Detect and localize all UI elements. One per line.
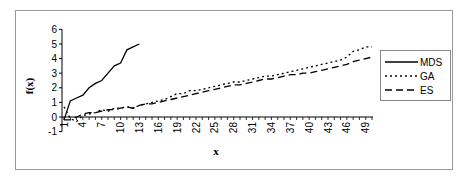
x-tick-label: 43 [323, 122, 334, 134]
x-tick-label: 22 [191, 122, 202, 134]
x-tick-label: 16 [153, 122, 164, 134]
y-tick-label: 1 [51, 97, 57, 108]
x-tick-label: 40 [304, 122, 315, 134]
x-tick-label: 19 [172, 122, 183, 134]
y-axis-title: f(x) [23, 77, 36, 94]
y-tick-label: 3 [51, 68, 57, 79]
x-tick-label: 10 [115, 122, 126, 134]
legend-label-ga: GA [420, 71, 435, 82]
x-tick-label: 49 [360, 122, 371, 134]
y-tick-label: 4 [51, 53, 57, 64]
legend-label-es: ES [420, 85, 434, 96]
y-tick-label: -1 [48, 126, 57, 137]
y-tick-label: 2 [51, 82, 57, 93]
legend: MDS GA ES [381, 51, 451, 101]
x-tick-label: 25 [209, 122, 220, 134]
x-tick-label: 46 [341, 122, 352, 134]
y-tick-label: 0 [51, 112, 57, 123]
x-tick-label: 28 [228, 122, 239, 134]
x-tick-label: 34 [266, 122, 277, 134]
x-tick-label: 31 [247, 122, 258, 134]
line-chart: -10123456 147101316192225283134374043464… [0, 0, 466, 180]
x-tick-label: 4 [77, 122, 88, 128]
y-tick-label: 6 [51, 24, 57, 35]
x-tick-label: 13 [134, 122, 145, 134]
x-tick-label: 1 [59, 122, 70, 128]
x-tick-label: 37 [285, 122, 296, 134]
x-tick-label: 7 [96, 122, 107, 128]
legend-label-mds: MDS [420, 57, 443, 68]
x-axis-title: x [213, 145, 219, 157]
y-tick-label: 5 [51, 39, 57, 50]
